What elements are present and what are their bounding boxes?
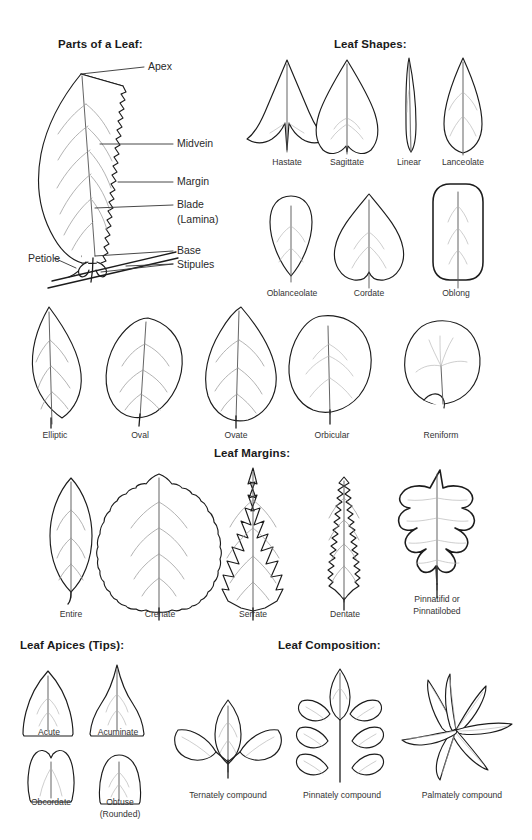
shape-oblong-figure (433, 184, 483, 288)
label-margin-serrate: Serrate (225, 609, 281, 619)
label-margin-pinnatifid-line1: Pinnatifid or (395, 594, 479, 605)
label-shape-oval: Oval (113, 430, 167, 440)
margin-crenate-figure (97, 474, 222, 620)
callout-base: Base (177, 244, 201, 256)
callout-lamina: (Lamina) (177, 213, 218, 225)
label-apex-obtuse-line1: Obtuse (88, 797, 152, 808)
callout-petiole: Petiole (28, 252, 60, 264)
margin-dentate-figure (328, 477, 360, 610)
margin-pinnatifid-figure (399, 470, 475, 598)
label-composition-ternate: Ternately compound (174, 790, 282, 800)
label-margin-dentate: Dentate (316, 609, 374, 619)
label-shape-cordate: Cordate (339, 288, 399, 298)
shape-oblanceolate-figure (270, 196, 312, 282)
label-margin-crenate: Crenate (131, 609, 189, 619)
composition-ternate-figure (175, 700, 282, 778)
shape-orbicular-figure (289, 316, 371, 424)
section-title-leaf-shapes: Leaf Shapes: (334, 38, 407, 50)
label-apex-obcordate: Obcordate (17, 797, 85, 807)
label-shape-hastate: Hastate (257, 157, 317, 167)
shape-elliptic-figure (32, 307, 81, 428)
leaf-morphology-illustration (0, 0, 532, 840)
label-apex-acuminate: Acuminate (85, 727, 151, 737)
callout-blade: Blade (177, 198, 204, 210)
apex-acuminate-figure (90, 665, 144, 736)
label-shape-reniform: Reniform (410, 430, 472, 440)
label-shape-elliptic: Elliptic (27, 430, 83, 440)
shape-cordate-figure (334, 194, 403, 288)
label-shape-lanceolate: Lanceolate (428, 157, 498, 167)
label-shape-sagittate: Sagittate (316, 157, 378, 167)
shape-ovate-figure (206, 307, 277, 428)
section-title-parts-of-leaf: Parts of a Leaf: (58, 38, 143, 50)
shape-lanceolate-figure (444, 58, 482, 155)
label-shape-linear: Linear (385, 157, 433, 167)
callout-stipules: Stipules (177, 258, 214, 270)
apex-obcordate-figure (28, 750, 74, 802)
section-title-leaf-composition: Leaf Composition: (278, 639, 381, 651)
label-apex-obtuse-line2: (Rounded) (88, 809, 152, 820)
section-title-leaf-margins: Leaf Margins: (214, 447, 290, 459)
shape-sagittate-figure (316, 60, 378, 154)
callout-margin: Margin (177, 175, 209, 187)
label-composition-pinnate: Pinnately compound (290, 790, 394, 800)
shape-hastate-figure (247, 60, 327, 152)
label-shape-orbicular: Orbicular (300, 430, 364, 440)
shape-linear-figure (406, 58, 416, 152)
composition-pinnate-figure (296, 669, 383, 782)
callout-apex: Apex (148, 60, 172, 72)
margin-serrate-figure (222, 468, 283, 620)
callout-midvein: Midvein (177, 137, 213, 149)
label-composition-palmate: Palmately compound (408, 790, 516, 800)
label-apex-acute: Acute (21, 727, 77, 737)
shape-reniform-figure (405, 321, 480, 408)
composition-palmate-figure (402, 674, 512, 780)
section-title-leaf-apices: Leaf Apices (Tips): (20, 639, 124, 651)
label-shape-oblanceolate: Oblanceolate (254, 288, 330, 298)
label-shape-oblong: Oblong (427, 288, 485, 298)
margin-entire-figure (50, 478, 92, 604)
label-margin-entire: Entire (44, 609, 98, 619)
label-shape-ovate: Ovate (208, 430, 264, 440)
shape-oval-figure (106, 318, 182, 426)
label-margin-pinnatifid-line2: Pinnatilobed (395, 606, 479, 617)
